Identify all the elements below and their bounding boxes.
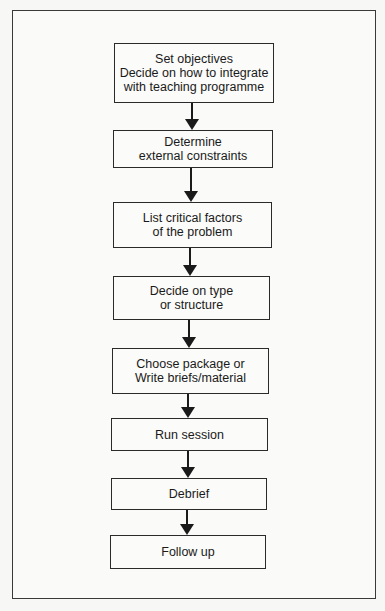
arrow-down-icon	[184, 168, 198, 202]
step-set-objectives: Set objectives Decide on how to integrat…	[114, 43, 274, 103]
step-determine-constraints: Determine external constraints	[113, 130, 273, 168]
step-decide-type: Decide on type or structure	[113, 276, 270, 320]
step-run-session: Run session	[111, 418, 268, 451]
arrow-down-icon	[185, 103, 199, 130]
step-debrief: Debrief	[111, 478, 267, 510]
step-choose-package: Choose package or Write briefs/material	[112, 348, 269, 394]
step-list-critical-factors: List critical factors of the problem	[113, 202, 272, 248]
arrow-down-icon	[182, 320, 196, 348]
arrow-down-icon	[181, 451, 195, 478]
arrow-down-icon	[180, 510, 194, 535]
arrow-down-icon	[181, 394, 195, 418]
step-follow-up: Follow up	[110, 535, 266, 569]
arrow-down-icon	[183, 248, 197, 276]
